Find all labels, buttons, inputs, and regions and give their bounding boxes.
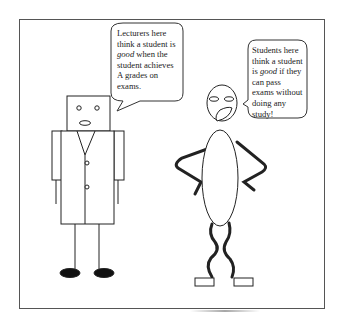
student-left-leg [208,224,217,277]
student-text-line-1: Students here [252,45,308,56]
student-right-shoe [234,278,253,286]
student-right-leg [224,223,233,277]
lecturer-left-eye [77,106,81,110]
lecturer-text-line-5: A grades on [117,70,183,81]
lecturer-emphasis-good: good [117,49,134,59]
lecturer-text-line-1: Lecturers here [117,28,183,39]
lecturer-figure [52,96,124,278]
student-left-eye [210,97,219,101]
student-text-line-2: think a student [252,56,308,67]
lecturer-text-line-3-rest: when the [134,49,167,59]
student-right-arm [237,142,266,190]
student-speech-text: Students here think a student is good if… [252,45,308,119]
scan-artifact [190,310,260,312]
student-right-eye [225,97,234,101]
lecturer-right-sleeve [114,131,124,180]
student-text-line-5: exams without [252,87,308,98]
lecturer-head [67,96,110,131]
student-text-line-7: study! [252,109,308,120]
student-text-line-3: is good if they [252,66,308,77]
lecturer-coat [61,131,114,224]
student-text-line-3-pre: is [252,66,260,76]
student-text-line-6: doing any [252,98,308,109]
lecturer-button-1 [85,161,89,165]
lecturer-button-2 [85,185,89,189]
lecturer-text-line-2: think a student is [117,39,183,50]
student-body [202,130,238,226]
lecturer-left-shoe [60,269,80,278]
student-emphasis-good: good [260,66,277,76]
lecturer-speech-text: Lecturers here think a student is good w… [117,28,183,92]
lecturer-text-line-6: exams. [117,81,183,92]
lecturer-right-eye [95,106,99,110]
student-text-line-3-rest: if they [277,66,301,76]
lecturer-text-line-3: good when the [117,49,183,60]
lecturer-text-line-4: student achieves [117,60,183,71]
student-left-shoe [195,278,214,286]
lecturer-mouth [80,121,91,126]
student-text-line-4: can pass [252,77,308,88]
lecturer-right-shoe [94,269,114,278]
